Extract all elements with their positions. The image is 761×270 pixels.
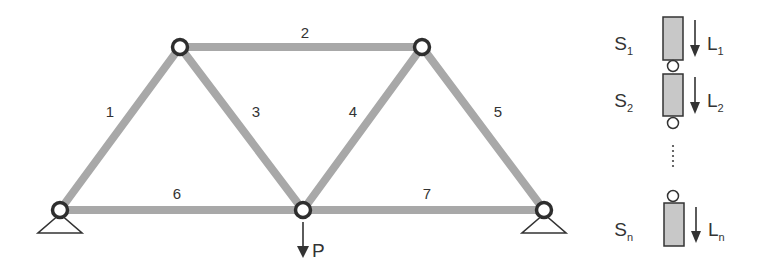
load-label-2: L2 xyxy=(707,90,724,114)
series-system: S1 L1 S2 L2 xyxy=(614,17,725,246)
member-1 xyxy=(60,47,180,210)
member-label-2: 2 xyxy=(301,24,309,41)
arrow-down-icon xyxy=(691,231,701,243)
node-b xyxy=(173,40,188,55)
node-a xyxy=(53,203,68,218)
truss-nodes xyxy=(53,40,552,218)
element-box-n xyxy=(664,203,684,246)
link-hinge-1 xyxy=(668,61,679,72)
series-element-1: S1 L1 xyxy=(614,17,724,72)
load-label-n: Ln xyxy=(708,219,725,243)
member-label-4: 4 xyxy=(349,103,357,120)
strength-label-2: S2 xyxy=(614,90,633,114)
strength-label-1: S1 xyxy=(614,33,633,57)
member-label-6: 6 xyxy=(173,185,181,202)
arrow-down-icon xyxy=(297,246,309,258)
element-box-2 xyxy=(663,74,683,116)
node-d xyxy=(415,40,430,55)
load-label-1: L1 xyxy=(707,33,724,57)
member-3 xyxy=(180,47,303,210)
link-hinge-2 xyxy=(668,118,679,129)
load-p: P xyxy=(297,222,325,261)
member-4 xyxy=(303,47,422,210)
arrow-down-icon xyxy=(690,45,700,57)
arrow-down-icon xyxy=(690,102,700,114)
link-hinge-n xyxy=(668,191,679,202)
series-element-2: S2 L2 xyxy=(614,74,724,129)
member-label-1: 1 xyxy=(106,103,114,120)
element-box-1 xyxy=(663,17,683,60)
member-label-5: 5 xyxy=(494,103,502,120)
truss-members xyxy=(60,47,544,210)
node-e xyxy=(537,203,552,218)
load-label: P xyxy=(312,240,325,261)
node-c xyxy=(296,203,311,218)
strength-label-n: Sn xyxy=(614,219,633,243)
truss-reliability-diagram: 1 2 3 4 5 6 7 P S1 xyxy=(0,0,761,270)
member-label-7: 7 xyxy=(423,185,431,202)
ellipsis-dots xyxy=(672,145,674,167)
member-5 xyxy=(422,47,544,210)
series-element-n: Sn Ln xyxy=(614,191,725,247)
member-label-3: 3 xyxy=(252,103,260,120)
